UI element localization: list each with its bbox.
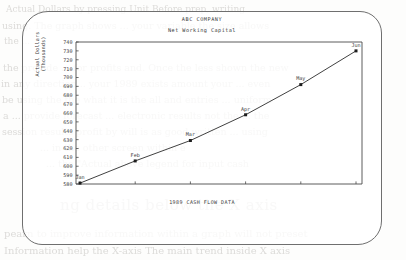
chart-title: ABC COMPANY [22,16,382,22]
y-axis-tick-label: 610 [63,154,72,160]
y-axis-title-line2: (Thousands) [40,36,46,71]
data-marker-group [79,49,358,184]
y-axis-tick-label: 710 [63,66,72,72]
scanned-page: Actual Dollars by pressing Unit Before p… [0,0,406,260]
chart-subtitle: Net Working Capital [22,27,382,33]
data-marker [79,182,82,185]
x-axis-title: 1989 CASH FLOW DATA [22,199,382,205]
data-point-label: Jun [351,42,360,48]
data-marker [134,159,137,162]
y-axis-tick-label: 690 [63,83,72,89]
data-point-label: Feb [131,152,140,158]
y-axis-tick-label: 620 [63,145,72,151]
plot-area: 7407307207107006906806706606506406306206… [22,11,382,245]
data-point-label: May [296,75,305,82]
data-line [80,51,356,183]
line-chart: ABC COMPANY Net Working Capital Actual D… [22,11,382,245]
y-axis-tick-label: 630 [63,137,72,143]
y-axis-tick-label: 680 [63,92,72,98]
data-marker [244,113,247,116]
y-axis-tick-label: 730 [63,48,72,54]
y-axis-tick-label: 640 [63,128,72,134]
y-axis-tick-label: 700 [63,74,72,80]
y-axis-tick-label: 590 [63,172,72,178]
data-marker [299,83,302,86]
data-marker [189,139,192,142]
y-axis-title-line1: Actual Dollars [34,32,40,77]
data-point-label: Mar [186,131,195,137]
y-axis-tick-label: 720 [63,57,72,63]
y-axis-tick-label: 660 [63,110,72,116]
data-point-label: Jan [75,174,84,180]
y-axis-tick-label: 670 [63,101,72,107]
y-axis-tick-label: 580 [63,181,72,187]
data-point-label: Apr [241,106,250,113]
data-marker [355,49,358,52]
y-axis-tick-label: 600 [63,163,72,169]
data-point-label-group: JanFebMarAprMayJun [75,42,360,180]
y-axis-tick-label: 650 [63,119,72,125]
bleed-line: Information help the X-axis The main tre… [4,245,290,256]
y-axis-title: Actual Dollars (Thousands) [34,19,46,89]
y-axis-tick-label: 740 [63,39,72,45]
